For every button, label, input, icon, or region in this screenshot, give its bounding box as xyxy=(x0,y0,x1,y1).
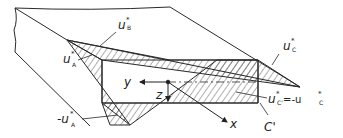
svg-text:*: * xyxy=(71,50,75,58)
svg-text:A: A xyxy=(71,121,76,128)
beam-left-break xyxy=(14,8,16,52)
label-minus-uA: -u * A xyxy=(57,110,76,128)
svg-text:u: u xyxy=(63,52,71,66)
svg-text:*: * xyxy=(276,90,280,98)
label-Cprime: C' xyxy=(264,120,276,134)
label-uB: u * B xyxy=(118,16,131,32)
svg-text:*: * xyxy=(318,90,322,98)
svg-text:=-u: =-u xyxy=(283,94,301,105)
label-uCprime-equals-minus-uC: u * C' =-u * C xyxy=(268,90,323,106)
z-axis-label: z xyxy=(155,88,163,102)
beam-warping-diagram: y z x u * B u * A u * C -u * A u * C' =-… xyxy=(0,0,343,138)
svg-text:u: u xyxy=(268,92,276,106)
svg-text:C: C xyxy=(292,46,296,53)
svg-text:u: u xyxy=(118,18,126,32)
svg-text:*: * xyxy=(70,110,74,118)
label-uC: u * C xyxy=(283,37,296,53)
svg-text:*: * xyxy=(126,16,130,24)
svg-text:B: B xyxy=(127,24,131,31)
beam-top-left-diagonal xyxy=(15,8,67,40)
y-axis-label: y xyxy=(123,75,132,89)
warping-bottom-flange xyxy=(102,103,160,125)
beam-bottom-left-diagonal xyxy=(15,52,90,126)
svg-text:u: u xyxy=(283,39,291,53)
svg-text:-u: -u xyxy=(57,112,69,126)
svg-text:C: C xyxy=(319,99,323,106)
svg-text:*: * xyxy=(291,37,295,45)
label-uA: u * A xyxy=(63,50,77,68)
beam-top-edge xyxy=(15,7,170,9)
svg-text:A: A xyxy=(72,61,77,68)
x-axis-label: x xyxy=(229,117,238,131)
